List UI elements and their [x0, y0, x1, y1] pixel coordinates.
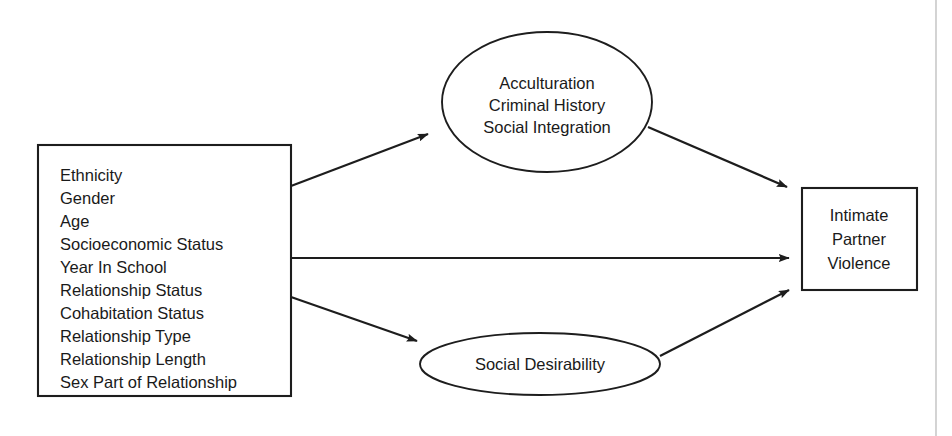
predictor-item-gender: Gender [60, 189, 116, 207]
edge-predictors-to-bottom-mediator [291, 297, 417, 341]
edge-bottom-mediator-to-outcome [660, 290, 789, 356]
diagram-canvas: Ethnicity Gender Age Socioeconomic Statu… [0, 0, 952, 436]
edge-top-mediator-to-outcome [648, 127, 787, 187]
edge-predictors-to-top-mediator [291, 134, 428, 186]
predictors-box[interactable]: Ethnicity Gender Age Socioeconomic Statu… [38, 145, 291, 396]
predictor-item-socioeconomic-status: Socioeconomic Status [60, 235, 223, 253]
predictor-item-relationship-type: Relationship Type [60, 327, 191, 345]
predictor-item-relationship-status: Relationship Status [60, 281, 202, 299]
mediator-top-item-criminal-history: Criminal History [489, 96, 606, 114]
mediator-top-item-acculturation: Acculturation [499, 74, 594, 92]
predictor-item-relationship-length: Relationship Length [60, 350, 206, 368]
outcome-line-intimate: Intimate [830, 206, 889, 224]
predictor-item-age: Age [60, 212, 89, 230]
predictor-item-ethnicity: Ethnicity [60, 166, 123, 184]
outcome-box[interactable]: Intimate Partner Violence [802, 188, 917, 290]
model-diagram: Ethnicity Gender Age Socioeconomic Statu… [0, 0, 952, 436]
outcome-line-partner: Partner [832, 230, 887, 248]
outcome-line-violence: Violence [828, 254, 891, 272]
predictor-item-year-in-school: Year In School [60, 258, 167, 276]
mediator-top-item-social-integration: Social Integration [483, 118, 611, 136]
mediator-bottom-item-social-desirability: Social Desirability [475, 355, 606, 373]
mediator-bottom-ellipse[interactable]: Social Desirability [420, 333, 660, 395]
mediator-top-ellipse[interactable]: Acculturation Criminal History Social In… [442, 32, 652, 172]
predictor-item-sex-part-of-relationship: Sex Part of Relationship [60, 373, 237, 391]
predictor-item-cohabitation-status: Cohabitation Status [60, 304, 204, 322]
